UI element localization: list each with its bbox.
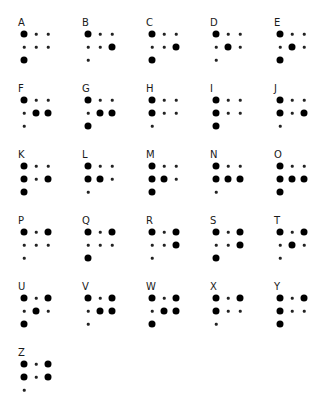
raised-dot-icon bbox=[277, 321, 284, 328]
flat-dot-icon bbox=[215, 46, 218, 49]
flat-dot-icon bbox=[23, 46, 26, 49]
flat-dot-icon bbox=[239, 310, 242, 313]
raised-dot-icon bbox=[149, 97, 156, 104]
letter-label: D bbox=[210, 18, 218, 28]
raised-dot-icon bbox=[21, 57, 28, 64]
letter-label: L bbox=[82, 150, 88, 160]
flat-dot-icon bbox=[99, 99, 102, 102]
letter-cell-a: A bbox=[18, 18, 78, 78]
flat-dot-icon bbox=[111, 178, 114, 181]
letter-label: W bbox=[146, 282, 156, 292]
letter-label: V bbox=[82, 282, 89, 292]
letter-cell-h: H bbox=[146, 84, 206, 144]
flat-dot-icon bbox=[291, 231, 294, 234]
flat-dot-icon bbox=[227, 297, 230, 300]
flat-dot-icon bbox=[87, 191, 90, 194]
raised-dot-icon bbox=[213, 31, 220, 38]
raised-dot-icon bbox=[45, 229, 52, 236]
raised-dot-icon bbox=[301, 176, 308, 183]
flat-dot-icon bbox=[175, 178, 178, 181]
flat-dot-icon bbox=[87, 310, 90, 313]
flat-dot-icon bbox=[35, 178, 38, 181]
flat-dot-icon bbox=[87, 59, 90, 62]
flat-dot-icon bbox=[239, 33, 242, 36]
flat-dot-icon bbox=[303, 244, 306, 247]
raised-dot-icon bbox=[301, 295, 308, 302]
raised-dot-icon bbox=[213, 229, 220, 236]
raised-dot-icon bbox=[277, 229, 284, 236]
raised-dot-icon bbox=[85, 295, 92, 302]
letter-label: Z bbox=[18, 348, 25, 358]
letter-cell-g: G bbox=[82, 84, 142, 144]
letter-cell-y: Y bbox=[274, 282, 323, 342]
flat-dot-icon bbox=[35, 165, 38, 168]
raised-dot-icon bbox=[33, 110, 40, 117]
letter-cell-x: X bbox=[210, 282, 270, 342]
raised-dot-icon bbox=[45, 176, 52, 183]
flat-dot-icon bbox=[87, 46, 90, 49]
raised-dot-icon bbox=[21, 361, 28, 368]
raised-dot-icon bbox=[149, 31, 156, 38]
letter-cell-b: B bbox=[82, 18, 142, 78]
flat-dot-icon bbox=[23, 389, 26, 392]
flat-dot-icon bbox=[303, 33, 306, 36]
flat-dot-icon bbox=[291, 165, 294, 168]
flat-dot-icon bbox=[227, 231, 230, 234]
letter-cell-j: J bbox=[274, 84, 323, 144]
letter-label: T bbox=[274, 216, 280, 226]
raised-dot-icon bbox=[85, 229, 92, 236]
letter-label: N bbox=[210, 150, 217, 160]
flat-dot-icon bbox=[47, 33, 50, 36]
flat-dot-icon bbox=[87, 323, 90, 326]
letter-cell-w: W bbox=[146, 282, 206, 342]
flat-dot-icon bbox=[35, 297, 38, 300]
raised-dot-icon bbox=[149, 110, 156, 117]
raised-dot-icon bbox=[21, 97, 28, 104]
flat-dot-icon bbox=[215, 244, 218, 247]
raised-dot-icon bbox=[301, 110, 308, 117]
flat-dot-icon bbox=[35, 33, 38, 36]
raised-dot-icon bbox=[213, 163, 220, 170]
raised-dot-icon bbox=[277, 163, 284, 170]
raised-dot-icon bbox=[225, 44, 232, 51]
flat-dot-icon bbox=[47, 165, 50, 168]
letter-label: P bbox=[18, 216, 24, 226]
raised-dot-icon bbox=[301, 229, 308, 236]
raised-dot-icon bbox=[21, 374, 28, 381]
flat-dot-icon bbox=[99, 297, 102, 300]
raised-dot-icon bbox=[277, 189, 284, 196]
letter-label: K bbox=[18, 150, 25, 160]
raised-dot-icon bbox=[213, 97, 220, 104]
flat-dot-icon bbox=[291, 310, 294, 313]
flat-dot-icon bbox=[35, 231, 38, 234]
letter-label: I bbox=[210, 84, 213, 94]
letter-label: H bbox=[146, 84, 154, 94]
flat-dot-icon bbox=[87, 112, 90, 115]
flat-dot-icon bbox=[279, 125, 282, 128]
flat-dot-icon bbox=[291, 112, 294, 115]
flat-dot-icon bbox=[163, 99, 166, 102]
flat-dot-icon bbox=[175, 165, 178, 168]
flat-dot-icon bbox=[151, 310, 154, 313]
raised-dot-icon bbox=[277, 31, 284, 38]
flat-dot-icon bbox=[111, 244, 114, 247]
raised-dot-icon bbox=[45, 374, 52, 381]
flat-dot-icon bbox=[175, 112, 178, 115]
flat-dot-icon bbox=[111, 99, 114, 102]
raised-dot-icon bbox=[173, 44, 180, 51]
flat-dot-icon bbox=[99, 33, 102, 36]
letter-label: Y bbox=[274, 282, 280, 292]
flat-dot-icon bbox=[35, 376, 38, 379]
flat-dot-icon bbox=[35, 46, 38, 49]
flat-dot-icon bbox=[175, 99, 178, 102]
flat-dot-icon bbox=[303, 46, 306, 49]
letter-label: X bbox=[210, 282, 217, 292]
flat-dot-icon bbox=[35, 244, 38, 247]
flat-dot-icon bbox=[175, 33, 178, 36]
letter-label: O bbox=[274, 150, 282, 160]
raised-dot-icon bbox=[21, 229, 28, 236]
raised-dot-icon bbox=[21, 189, 28, 196]
flat-dot-icon bbox=[215, 191, 218, 194]
letter-cell-s: S bbox=[210, 216, 270, 276]
raised-dot-icon bbox=[277, 97, 284, 104]
